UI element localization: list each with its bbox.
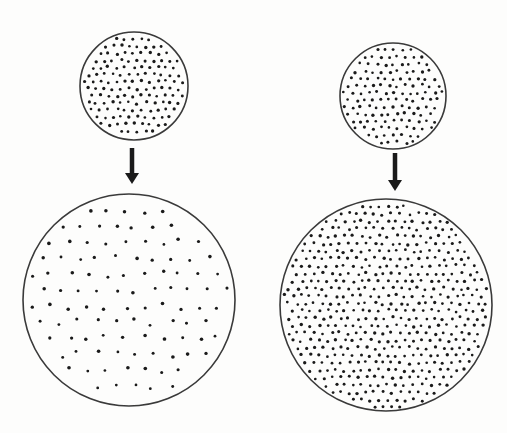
dot — [106, 108, 109, 111]
dot — [60, 256, 63, 259]
dot — [395, 324, 398, 327]
dot — [168, 101, 171, 104]
dot — [441, 90, 444, 93]
dot — [157, 53, 160, 56]
dot — [401, 226, 404, 229]
dot — [171, 94, 174, 97]
dot — [355, 256, 358, 259]
dot — [383, 257, 386, 260]
dot — [214, 335, 217, 338]
left-arrow-icon — [125, 148, 139, 184]
dot — [126, 366, 130, 370]
dot — [87, 74, 90, 77]
dot — [61, 356, 64, 359]
dot — [441, 228, 444, 231]
dot — [473, 264, 476, 267]
dot — [96, 115, 99, 118]
dot — [400, 133, 403, 136]
dot — [339, 345, 342, 348]
dot — [367, 279, 370, 282]
dot — [334, 368, 337, 371]
dot — [379, 266, 382, 269]
dot — [463, 250, 466, 253]
dot — [412, 127, 415, 130]
dot — [115, 37, 118, 40]
dot — [467, 332, 470, 335]
dot — [417, 376, 420, 379]
dot — [395, 249, 398, 252]
dot — [420, 279, 423, 282]
dot — [356, 345, 359, 348]
dot — [406, 243, 409, 246]
dot — [374, 242, 377, 245]
dot — [385, 64, 388, 67]
dot — [196, 272, 199, 275]
dot — [386, 113, 389, 116]
dot — [368, 399, 371, 402]
dot — [317, 250, 320, 253]
dot — [151, 259, 154, 262]
dot — [412, 234, 415, 237]
dot — [286, 301, 289, 304]
dot — [181, 81, 184, 84]
dot — [391, 64, 394, 67]
dot — [335, 295, 338, 298]
dot — [473, 279, 476, 282]
dot — [171, 355, 175, 359]
dot — [446, 353, 449, 356]
dot — [386, 325, 389, 328]
dot — [77, 289, 80, 292]
circle-outline — [23, 194, 235, 406]
dot — [335, 383, 338, 386]
dot — [371, 72, 374, 75]
dot — [381, 303, 384, 306]
dot — [404, 248, 407, 251]
dot — [297, 316, 300, 319]
dot — [350, 249, 353, 252]
dot — [451, 318, 454, 321]
dot — [335, 310, 338, 313]
dot — [359, 293, 362, 296]
dot — [456, 249, 459, 252]
dot — [313, 331, 316, 334]
dot — [160, 86, 163, 89]
dot — [455, 353, 458, 356]
dot — [378, 353, 381, 356]
dot — [310, 280, 313, 283]
dot — [329, 243, 332, 246]
dot — [402, 205, 405, 208]
dot — [300, 265, 303, 268]
dot — [356, 242, 359, 245]
dot — [404, 266, 407, 269]
dot — [458, 346, 461, 349]
dot — [83, 80, 86, 83]
dot — [155, 95, 158, 98]
dot — [141, 37, 144, 40]
dot — [434, 226, 437, 229]
dot — [334, 324, 337, 327]
dot — [181, 336, 184, 339]
dot — [389, 361, 392, 364]
dot — [447, 308, 450, 311]
dot — [391, 377, 394, 380]
right-large-circle — [280, 199, 492, 411]
dot — [387, 355, 390, 358]
dot — [410, 264, 413, 267]
dot — [330, 286, 333, 289]
dot — [86, 241, 89, 244]
dot — [395, 140, 398, 143]
dot — [198, 307, 201, 310]
dot — [120, 58, 123, 61]
dot — [373, 331, 376, 334]
dot — [331, 331, 334, 334]
dot — [92, 67, 95, 70]
dot — [117, 107, 120, 110]
dot — [362, 309, 365, 312]
dot — [450, 301, 453, 304]
dot — [404, 279, 407, 282]
dot — [476, 271, 479, 274]
dot — [382, 318, 385, 321]
dot — [348, 211, 351, 214]
dot — [87, 273, 91, 277]
dot — [152, 60, 155, 63]
